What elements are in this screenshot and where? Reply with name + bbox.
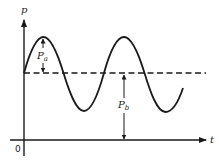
pa-label: Pa — [36, 50, 48, 63]
sine-waveform — [24, 37, 183, 112]
pressure-waveform-diagram: p t 0 Pa Pb — [0, 0, 219, 163]
pa-label-sub: a — [44, 55, 48, 63]
x-axis-label: t — [210, 134, 215, 145]
pb-label-sub: b — [125, 104, 130, 112]
pb-label: Pb — [117, 99, 130, 112]
origin-label: 0 — [15, 144, 21, 154]
y-axis-label: p — [21, 4, 28, 15]
